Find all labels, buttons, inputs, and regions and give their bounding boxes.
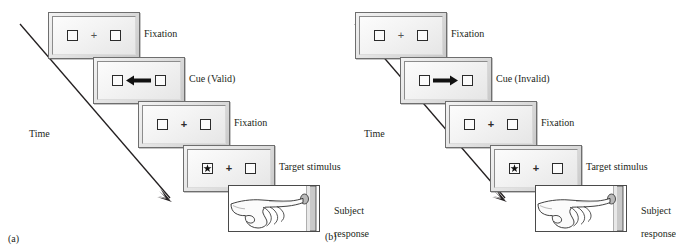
star-icon [510,164,519,173]
left-box [419,75,430,86]
time-label-a: Time [29,128,50,139]
caption-a: (a) [8,233,19,244]
right-box [417,30,428,41]
screen-fixation-1-b: + [355,12,447,59]
stimulus-row: + [496,163,576,174]
step-label-fixation-1-b: Fixation [451,28,484,40]
right-box [155,75,166,86]
screen-inner: + [361,18,441,53]
step-label-target-a: Target stimulus [279,161,341,173]
screen-inner: + [496,151,576,186]
step-label-fixation-2-a: Fixation [234,117,267,129]
step-label-target-b: Target stimulus [586,161,648,173]
right-box [245,163,256,174]
step-label-fixation-2-b: Fixation [541,117,574,129]
right-box [110,30,121,41]
right-box [507,119,518,130]
screen-inner [406,63,486,98]
stimulus-row: + [189,163,269,174]
step-label-fixation-1-a: Fixation [144,28,177,40]
screen-response-a [228,185,320,232]
left-box-target [509,163,520,174]
screen-inner: + [451,107,531,142]
screen-inner: + [54,18,134,53]
screen-fixation-1-a: + [48,12,140,59]
left-box [112,75,123,86]
screen-response-b [535,185,627,232]
panel-a: Time + Fixation Cue ( [0,0,335,252]
fixation-cross-icon: + [168,119,200,130]
step-label-response-b-line1: Subject [641,205,671,216]
panel-b: Time + Fixation Cue ( [335,0,670,252]
screen-inner: + [189,151,269,186]
stimulus-row: + [361,30,441,41]
left-box-target [202,163,213,174]
left-box [67,30,78,41]
left-box [464,119,475,130]
time-label-b: Time [364,128,385,139]
stimulus-row [406,75,486,86]
star-icon [203,164,212,173]
screen-fixation-2-a: + [138,101,230,148]
left-box [157,119,168,130]
stimulus-row: + [54,30,134,41]
screen-inner [99,63,179,98]
hand-pressing-button-image [229,186,319,231]
screen-inner: + [144,107,224,142]
arrow-right-icon [430,75,462,86]
arrow-left-icon [123,75,155,86]
fixation-cross-icon: + [78,30,110,41]
screen-cue-a [93,57,185,104]
screen-fixation-2-b: + [445,101,537,148]
right-box [462,75,473,86]
fixation-cross-icon: + [520,163,552,174]
fixation-cross-icon: + [385,30,417,41]
caption-b: (b) [325,231,337,242]
fixation-cross-icon: + [475,119,507,130]
hand-pressing-button-image [536,186,626,231]
stimulus-row: + [451,119,531,130]
step-label-cue-b: Cue (Invalid) [496,73,550,85]
right-box [200,119,211,130]
step-label-response-b-line2: response [641,228,676,239]
step-label-response-b: Subject response [631,193,676,251]
fixation-cross-icon: + [213,163,245,174]
stimulus-row: + [144,119,224,130]
step-label-cue-a: Cue (Valid) [189,73,235,85]
screen-cue-b [400,57,492,104]
left-box [374,30,385,41]
right-box [552,163,563,174]
stimulus-row [99,75,179,86]
